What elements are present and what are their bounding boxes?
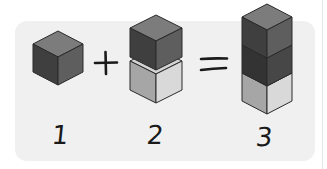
cube-icon: [32, 30, 84, 86]
edge-divider: [322, 0, 323, 169]
cube-stack-2: [129, 14, 183, 104]
equals-sign: [199, 54, 229, 76]
plus-sign: [93, 50, 119, 76]
label-one: 1: [51, 122, 70, 148]
label-two: 2: [146, 122, 165, 148]
cube-stack-3: [241, 3, 293, 115]
label-three: 3: [255, 124, 274, 150]
